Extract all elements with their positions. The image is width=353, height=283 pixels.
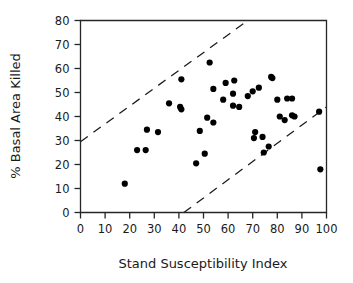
scatter-chart-figure: 010203040506070809010001020304050607080 … [0,0,353,283]
data-point [256,85,262,91]
data-points-group [122,59,324,186]
y-tick-label-30: 30 [55,134,70,148]
x-axis-title: Stand Susceptibility Index [118,256,287,271]
data-point [230,91,236,97]
data-point [204,115,210,121]
data-point [166,100,172,106]
data-point [122,181,128,187]
reference-line-upper-bound [81,21,248,142]
y-tick-label-0: 0 [62,206,69,220]
plot-canvas: 010203040506070809010001020304050607080 … [0,0,353,283]
x-tick-label-80: 80 [270,222,285,236]
data-point [155,129,161,135]
x-tick-label-40: 40 [172,222,187,236]
y-axis-title: % Basal Area Killed [8,53,23,179]
data-point [251,135,257,141]
y-tick-label-50: 50 [55,86,70,100]
data-point [220,97,226,103]
data-point [197,128,203,134]
data-point [144,127,150,133]
data-point [269,75,275,81]
x-tick-label-60: 60 [221,222,236,236]
x-tick-label-0: 0 [77,222,84,236]
data-point [291,113,297,119]
data-point [231,77,237,83]
data-point [134,147,140,153]
y-tick-label-80: 80 [55,14,70,28]
data-point [178,106,184,112]
data-point [193,160,199,166]
y-tick-label-60: 60 [55,62,70,76]
y-tick-label-10: 10 [55,182,70,196]
data-point [210,86,216,92]
data-point [245,93,251,99]
data-point [252,129,258,135]
tick-labels-group: 010203040506070809010001020304050607080 [55,14,338,236]
y-tick-label-70: 70 [55,38,70,52]
reference-line-lower-bound [184,107,327,213]
data-point [289,95,295,101]
ticks-group [75,21,327,219]
data-point [282,117,288,123]
data-point [230,103,236,109]
x-tick-label-20: 20 [122,222,137,236]
data-point [143,147,149,153]
y-tick-label-40: 40 [55,110,70,124]
data-point [250,88,256,94]
data-point [223,80,229,86]
data-point [210,119,216,125]
x-tick-label-100: 100 [316,222,338,236]
x-tick-label-70: 70 [245,222,260,236]
data-point [236,104,242,110]
data-point [266,143,272,149]
data-point [261,149,267,155]
data-point [274,97,280,103]
x-tick-label-50: 50 [196,222,211,236]
x-tick-label-10: 10 [98,222,113,236]
y-tick-label-20: 20 [55,158,70,172]
data-point [317,166,323,172]
data-point [178,76,184,82]
x-tick-label-90: 90 [295,222,310,236]
data-point [202,151,208,157]
data-point [316,109,322,115]
x-tick-label-30: 30 [147,222,162,236]
data-point [207,59,213,65]
data-point [259,134,265,140]
